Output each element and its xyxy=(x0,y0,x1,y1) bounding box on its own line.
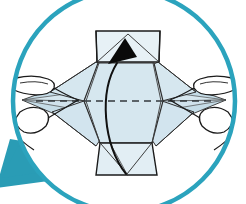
left-thumb xyxy=(14,76,54,95)
right-thumb xyxy=(194,76,234,95)
illustration-canvas: Origami fold step detail Magnified circu… xyxy=(0,0,246,204)
origami-detail-illustration xyxy=(0,0,246,204)
